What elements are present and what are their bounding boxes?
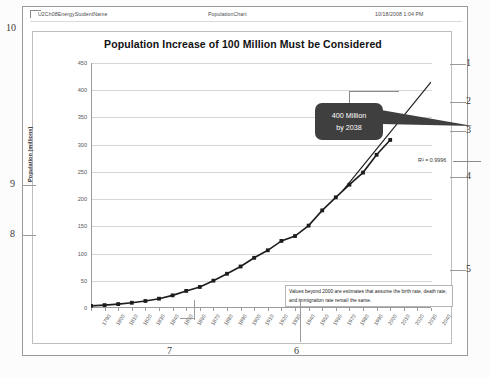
x-axis-tick-label: 1990: [373, 313, 384, 326]
x-axis-tick-mark: [336, 308, 337, 311]
series-line: [91, 140, 390, 306]
x-axis-tick-label: 1910: [264, 313, 275, 326]
x-axis-tick-mark: [159, 308, 160, 311]
rsquared-leader-line: [453, 161, 481, 162]
callout-line-2: by 2038: [315, 122, 383, 133]
y-axis-tick-label: 250: [63, 169, 87, 175]
x-axis-tick-label: 1970: [345, 313, 356, 326]
x-axis-tick-label: 1800: [114, 313, 125, 326]
annotation-leader-line: [194, 300, 195, 320]
data-point-marker: [198, 285, 202, 289]
chart-object[interactable]: Population Increase of 100 Million Must …: [32, 31, 452, 344]
x-axis-tick-mark: [145, 308, 146, 311]
header-left-text: U2Ch08EnergyStudentName: [38, 11, 108, 17]
y-axis-tick-label: 400: [63, 87, 87, 93]
annotation-number-6[interactable]: 6: [294, 345, 299, 356]
callout-bubble[interactable]: 400 Million by 2038: [315, 103, 383, 140]
chart-title: Population Increase of 100 Million Must …: [33, 38, 453, 50]
callout-leader-horizontal: [349, 91, 399, 92]
annotation-number-1[interactable]: 1: [466, 57, 471, 68]
x-axis-tick-label: 1980: [359, 313, 370, 326]
data-point-marker: [103, 303, 107, 307]
y-axis-title: Population (millions): [27, 127, 33, 182]
x-axis-tick-label: 2040: [441, 313, 452, 326]
annotation-leader-line: [450, 131, 466, 132]
y-axis-tick-label: 350: [63, 114, 87, 120]
data-point-marker: [157, 297, 161, 301]
data-point-marker: [375, 153, 379, 157]
data-point-marker: [212, 279, 216, 283]
data-point-marker: [320, 208, 324, 212]
header-center-text: PopulationChart: [208, 11, 247, 17]
data-point-marker: [239, 265, 243, 269]
x-axis-tick-mark: [213, 308, 214, 311]
y-axis-tick-label: 50: [63, 278, 87, 284]
x-axis-tick-mark: [227, 308, 228, 311]
y-axis-tick-label: 200: [63, 196, 87, 202]
y-axis-tick-label: 100: [63, 251, 87, 257]
x-axis-tick-label: 1880: [223, 313, 234, 326]
document-header: U2Ch08EnergyStudentName PopulationChart …: [30, 11, 462, 23]
callout-pointer: [381, 110, 476, 132]
data-point-marker: [361, 171, 365, 175]
x-axis-tick-label: 1920: [277, 313, 288, 326]
x-axis-tick-label: 1820: [141, 313, 152, 326]
annotation-number-7[interactable]: 7: [167, 345, 172, 356]
x-axis-tick-mark: [431, 308, 432, 311]
x-axis-tick-label: 1830: [155, 313, 166, 326]
x-axis-tick-mark: [173, 308, 174, 311]
x-axis-tick-label: 2010: [400, 313, 411, 326]
x-axis-tick-mark: [417, 308, 418, 311]
x-axis-tick-label: 1850: [182, 313, 193, 326]
x-axis-tick-mark: [118, 308, 119, 311]
data-point-marker: [307, 224, 311, 228]
x-axis-tick-mark: [349, 308, 350, 311]
x-axis-tick-label: 1940: [305, 313, 316, 326]
x-axis-tick-mark: [390, 308, 391, 311]
document-page: U2Ch08EnergyStudentName PopulationChart …: [0, 0, 490, 378]
x-axis-tick-mark: [254, 308, 255, 311]
x-axis-tick-label: 1840: [169, 313, 180, 326]
annotation-leader-line: [180, 318, 194, 319]
annotation-number-8[interactable]: 8: [10, 228, 15, 239]
x-axis-tick-label: 1810: [128, 313, 139, 326]
note-text-box[interactable]: Values beyond 2000 are estimates that as…: [285, 285, 453, 307]
annotation-leader-line: [450, 64, 466, 65]
y-axis-tick-label: 300: [63, 142, 87, 148]
x-axis-tick-label: 2030: [427, 313, 438, 326]
data-point-marker: [266, 248, 270, 252]
data-point-marker: [225, 272, 229, 276]
x-axis-tick-label: 1790: [101, 313, 112, 326]
y-axis-tick-label: 150: [63, 223, 87, 229]
data-point-marker: [144, 299, 148, 303]
x-axis-tick-label: 1900: [250, 313, 261, 326]
annotation-leader-line: [450, 177, 466, 178]
annotation-number-4[interactable]: 4: [466, 170, 471, 181]
annotation-leader-line: [22, 235, 36, 236]
annotation-leader-line: [450, 102, 466, 103]
y-axis-tick-label: 450: [63, 60, 87, 66]
annotation-number-5[interactable]: 5: [466, 263, 471, 274]
x-axis-tick-label: 1890: [237, 313, 248, 326]
y-axis-tick-group: 450400350300250200150100500: [63, 63, 87, 313]
data-point-marker: [280, 239, 284, 243]
annotation-number-10[interactable]: 10: [6, 22, 16, 33]
data-point-marker: [252, 256, 256, 260]
x-axis-tick-label: 2020: [413, 313, 424, 326]
data-series-layer: [91, 63, 431, 308]
x-axis-tick-label: 1950: [318, 313, 329, 326]
x-axis-tick-mark: [241, 308, 242, 311]
x-axis-tick-mark: [281, 308, 282, 311]
data-point-marker: [116, 302, 120, 306]
data-point-marker: [334, 195, 338, 199]
x-axis-tick-mark: [132, 308, 133, 311]
header-divider: [30, 21, 462, 22]
annotation-number-3[interactable]: 3: [466, 124, 471, 135]
x-axis-tick-group: 1790180018101820183018401850186018701880…: [91, 308, 431, 348]
annotation-number-9[interactable]: 9: [10, 178, 15, 189]
data-point-marker: [388, 138, 392, 142]
x-axis-tick-mark: [377, 308, 378, 311]
x-axis-tick-label: 2000: [386, 313, 397, 326]
annotation-number-2[interactable]: 2: [466, 95, 471, 106]
annotation-leader-line: [22, 185, 36, 186]
